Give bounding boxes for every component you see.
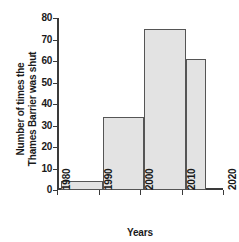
y-axis-tick [53,61,57,62]
y-axis-tick-label: 40 [26,99,52,109]
y-axis-line [57,18,59,190]
y-axis-tick-label: 70 [26,35,52,45]
y-axis-tick-label: 30 [26,121,52,131]
x-axis-tick-label: 1980 [61,169,72,190]
x-axis-tick-label: 2010 [186,169,197,190]
x-axis-title: Years [57,227,223,238]
y-axis-tick [53,40,57,41]
y-axis-tick-label: 50 [26,78,52,88]
y-axis-tick [53,18,57,19]
x-axis-tick-label: 2000 [144,169,155,190]
y-axis-tick-label: 80 [26,13,52,23]
y-axis-tick [53,104,57,105]
y-axis-tick [53,126,57,127]
y-axis-tick-label: 10 [26,164,52,174]
x-axis-tick [223,190,224,195]
x-axis-tick-label: 2020 [227,169,238,190]
x-axis-tick-label: 1990 [103,169,114,190]
bar [144,29,186,190]
y-axis-tick [53,169,57,170]
plot-area [57,18,223,190]
y-axis-tick-label: 0 [26,185,52,195]
y-axis-tick-label: 60 [26,56,52,66]
y-axis-tick [53,147,57,148]
thames-barrier-histogram: Number of times the Thames Barrier was s… [0,0,239,242]
y-axis-tick [53,83,57,84]
y-axis-tick-label: 20 [26,142,52,152]
x-axis-tick-labels: 19801990200020102020 [57,190,223,230]
y-axis-tick-labels: 01020304050607080 [26,0,52,242]
